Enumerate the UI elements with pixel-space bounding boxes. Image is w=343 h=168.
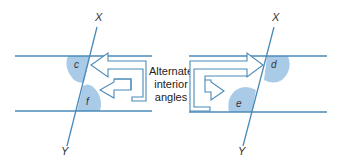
angle-label-c: c <box>74 59 79 70</box>
caption: Alternate interior angles <box>149 65 193 103</box>
transversal-xy <box>243 27 274 146</box>
angle-label-d: d <box>271 59 277 70</box>
label-x: X <box>271 11 280 23</box>
arrow-to-angle-c <box>91 53 146 101</box>
caption-line-1: Alternate <box>149 65 193 77</box>
angle-label-e: e <box>236 98 242 109</box>
arrow-to-angle-e <box>205 80 224 100</box>
arrow-to-angle-f <box>100 79 131 98</box>
right-bracket <box>205 76 247 80</box>
caption-line-3: angles <box>155 91 188 103</box>
angle-d-shade <box>264 56 290 83</box>
right-figure: X Y d e <box>189 11 327 157</box>
alternate-interior-angles-diagram: X Y c f Alternate interior angles X Y d … <box>0 0 343 168</box>
label-x: X <box>94 11 103 23</box>
left-figure: X Y c f <box>15 11 152 157</box>
label-y: Y <box>238 145 246 157</box>
angle-f-shade <box>77 85 101 112</box>
caption-line-2: interior <box>154 78 188 90</box>
label-y: Y <box>61 145 69 157</box>
angle-e-shade <box>228 87 256 112</box>
